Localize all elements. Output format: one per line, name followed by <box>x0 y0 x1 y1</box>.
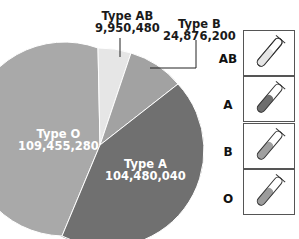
label-type-o-value: 109,455,280 <box>18 140 99 152</box>
label-type-b-value: 24,876,200 <box>163 30 236 42</box>
label-type-o: Type O 109,455,280 <box>18 128 99 152</box>
test-tube-icon-a <box>244 77 294 121</box>
label-type-a-value: 104,480,040 <box>105 170 186 182</box>
label-type-ab: Type AB 9,950,480 <box>95 10 160 34</box>
legend-label-a: A <box>216 98 240 112</box>
legend-label-o: O <box>216 192 240 206</box>
legend-label-ab: AB <box>216 52 240 66</box>
legend-box-a <box>243 76 295 122</box>
test-tube-icon-b <box>244 124 294 168</box>
label-type-ab-value: 9,950,480 <box>95 22 160 34</box>
legend-box-b <box>243 123 295 169</box>
label-type-a: Type A 104,480,040 <box>105 158 186 182</box>
test-tube-icon-o <box>244 170 294 214</box>
legend-box-o <box>243 169 295 215</box>
legend-box-ab <box>243 30 295 76</box>
test-tube-icon-ab <box>244 31 294 75</box>
legend-label-b: B <box>216 145 240 159</box>
label-type-b: Type B 24,876,200 <box>163 18 236 42</box>
